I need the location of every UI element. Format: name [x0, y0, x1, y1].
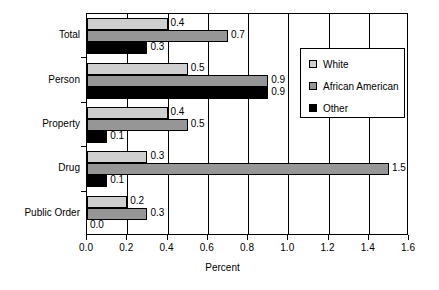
- category-label: Drug: [58, 162, 80, 173]
- category-axis: TotalPersonPropertyDrugPublic Order: [0, 13, 80, 235]
- x-axis-tick-label: 0.4: [160, 242, 174, 254]
- x-axis-tick-label: 0.6: [200, 242, 214, 254]
- x-axis-tick-label: 0.8: [240, 242, 254, 254]
- bar: [87, 42, 147, 54]
- gridline: [208, 14, 209, 234]
- bar: [87, 196, 127, 208]
- legend-swatch-icon: [309, 60, 317, 68]
- plot-area: 0.40.70.30.50.90.90.40.50.10.31.50.10.20…: [86, 13, 408, 235]
- x-axis-tick-label: 1.2: [321, 242, 335, 254]
- category-tick: [81, 191, 86, 192]
- x-axis-tick: [368, 235, 369, 240]
- bar-chart: 0.40.70.30.50.90.90.40.50.10.31.50.10.20…: [0, 0, 439, 290]
- gridline: [288, 14, 289, 234]
- legend-item: White: [309, 58, 349, 70]
- x-axis-tick: [207, 235, 208, 240]
- bar: [87, 87, 268, 99]
- bar-value-label: 0.5: [188, 62, 205, 74]
- bar-value-label: 0.9: [268, 74, 285, 86]
- bar: [87, 131, 107, 143]
- bar: [87, 75, 268, 87]
- bar-value-label: 0.1: [107, 174, 124, 186]
- bar-value-label: 0.3: [147, 150, 164, 162]
- bar-value-label: 0.4: [168, 17, 185, 29]
- bar-value-label: 0.2: [127, 195, 144, 207]
- x-axis-tick: [287, 235, 288, 240]
- x-axis-tick: [408, 235, 409, 240]
- bar-value-label: 0.9: [268, 86, 285, 98]
- category-tick: [81, 102, 86, 103]
- gridline: [329, 14, 330, 234]
- legend-swatch-icon: [309, 104, 317, 112]
- bar-value-label: 0.4: [168, 106, 185, 118]
- category-tick: [81, 146, 86, 147]
- bar: [87, 107, 168, 119]
- bar: [87, 163, 389, 175]
- bar: [87, 63, 188, 75]
- bar: [87, 175, 107, 187]
- x-axis-tick-label: 1.0: [280, 242, 294, 254]
- category-tick: [81, 57, 86, 58]
- bar-value-label: 0.7: [228, 29, 245, 41]
- x-axis-title: Percent: [0, 262, 439, 273]
- gridline: [248, 14, 249, 234]
- bar-value-label: 0.5: [188, 118, 205, 130]
- legend-label: Other: [323, 103, 348, 114]
- gridline: [369, 14, 370, 234]
- x-axis-tick: [247, 235, 248, 240]
- category-label: Public Order: [24, 207, 80, 218]
- x-axis-tick: [167, 235, 168, 240]
- x-axis-tick: [328, 235, 329, 240]
- x-axis-tick-label: 0.0: [79, 242, 93, 254]
- bar-value-label: 1.5: [389, 162, 406, 174]
- category-label: Total: [59, 29, 80, 40]
- category-label: Person: [48, 74, 80, 85]
- legend-item: Other: [309, 102, 348, 114]
- legend-swatch-icon: [309, 82, 317, 90]
- x-axis-tick-label: 0.2: [119, 242, 133, 254]
- x-axis-tick-label: 1.4: [361, 242, 375, 254]
- bar-value-label: 0.1: [107, 130, 124, 142]
- x-axis-tick: [86, 235, 87, 240]
- x-axis-title-label: Percent: [205, 262, 239, 273]
- bar: [87, 18, 168, 30]
- legend-item: African American: [309, 80, 399, 92]
- bar-value-label: 0.3: [147, 41, 164, 53]
- x-axis-tick: [126, 235, 127, 240]
- legend-label: White: [323, 59, 349, 70]
- bar: [87, 119, 188, 131]
- bar-value-label: 0.0: [87, 219, 104, 231]
- bar: [87, 151, 147, 163]
- category-label: Property: [42, 118, 80, 129]
- legend-label: African American: [323, 81, 399, 92]
- legend: WhiteAfrican AmericanOther: [300, 48, 405, 118]
- x-axis-tick-label: 1.6: [401, 242, 415, 254]
- bar-value-label: 0.3: [147, 207, 164, 219]
